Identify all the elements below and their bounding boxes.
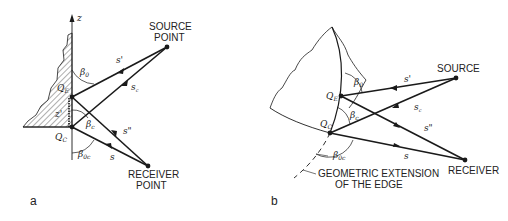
svg-text:β0c: β0c — [77, 149, 91, 160]
svg-text:s": s" — [123, 126, 132, 136]
svg-text:s': s' — [116, 55, 123, 65]
angle-arc-betac — [337, 107, 350, 124]
source-label-2: POINT — [154, 32, 185, 43]
svg-text:β0: β0 — [79, 67, 89, 78]
svg-text:β0c: β0c — [332, 150, 346, 161]
receiver-point — [146, 164, 151, 169]
svg-text:QC: QC — [320, 119, 332, 130]
ray-s-double — [341, 96, 465, 160]
svg-text:β0: β0 — [353, 77, 363, 88]
svg-text:s: s — [110, 152, 115, 162]
z-axis-arrow-icon — [70, 14, 75, 22]
panel-a-label: a — [30, 194, 37, 208]
point-qe — [70, 95, 75, 100]
arrow-icon — [105, 143, 112, 149]
source-point — [165, 45, 170, 50]
z-axis-label: z — [76, 13, 82, 23]
svg-text:QE: QE — [326, 91, 338, 102]
svg-text:QC: QC — [55, 132, 67, 143]
receiver-label: RECEIVER — [128, 169, 179, 180]
z-offset-label: z' — [54, 109, 62, 119]
wedge-outline — [270, 27, 332, 108]
arrow-icon — [117, 68, 124, 74]
ray-sc — [330, 78, 456, 133]
point-qc — [328, 131, 333, 136]
point-qe — [339, 94, 344, 99]
point-qc — [70, 125, 75, 130]
extension-label: GEOMETRIC EXTENSION — [318, 168, 439, 179]
angle-arc-betac — [72, 110, 88, 118]
receiver-label: RECEIVER — [448, 165, 499, 176]
receiver-point — [463, 158, 468, 163]
svg-text:βc: βc — [85, 119, 95, 130]
extension-leader — [303, 170, 316, 174]
ray-s — [330, 133, 465, 160]
panel-a: z SOURCE POINT RECEIVER POINT QE QC β0 β… — [23, 13, 192, 208]
arrow-icon — [390, 85, 397, 91]
svg-text:s: s — [404, 151, 409, 161]
svg-text:s': s' — [404, 74, 411, 84]
diffraction-diagram: z SOURCE POINT RECEIVER POINT QE QC β0 β… — [0, 0, 508, 221]
source-label: SOURCE — [437, 63, 480, 74]
source-label: SOURCE — [149, 21, 192, 32]
receiver-label-2: POINT — [136, 180, 167, 191]
svg-text:s": s" — [424, 123, 433, 133]
panel-b: SOURCE RECEIVER GEOMETRIC EXTENSION OF T… — [270, 27, 499, 208]
wedge-edge — [330, 27, 342, 133]
svg-text:sc: sc — [414, 102, 422, 113]
extension-label-2: OF THE EDGE — [335, 179, 403, 190]
svg-text:sc: sc — [131, 82, 139, 93]
panel-b-label: b — [271, 194, 278, 208]
source-point — [454, 76, 459, 81]
wedge-body — [23, 33, 72, 127]
svg-text:βc: βc — [349, 110, 359, 121]
